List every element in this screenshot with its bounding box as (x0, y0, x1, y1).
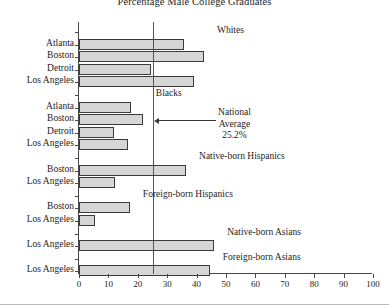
bar (79, 39, 184, 50)
x-axis-tick (79, 274, 80, 278)
x-axis-label: 30 (152, 279, 182, 289)
y-axis-label: Boston (47, 50, 74, 60)
y-axis-tick (75, 234, 79, 235)
x-axis-tick (255, 274, 256, 278)
y-axis-label: Boston (47, 164, 74, 174)
y-axis-tick (75, 271, 79, 272)
y-axis-tick (75, 183, 79, 184)
y-axis-tick (75, 57, 79, 58)
bar (79, 165, 186, 176)
y-axis-tick (75, 32, 79, 33)
x-axis-tick (314, 274, 315, 278)
x-axis-label: 90 (329, 279, 359, 289)
y-axis-label: Los Angeles (27, 138, 74, 148)
group-heading-foreign-born-hispanics: Foreign-born Hispanics (143, 189, 233, 199)
y-axis-tick (75, 246, 79, 247)
national-average-arrow (158, 120, 216, 121)
bottom-divider (0, 304, 389, 305)
x-axis-tick (285, 274, 286, 278)
national-average-annotation: NationalAverage25.2% (218, 107, 251, 142)
chart-title: Percentage Male College Graduates (0, 0, 389, 7)
bar (79, 202, 130, 213)
plot-area: 0102030405060708090100 (78, 22, 372, 274)
y-axis-tick (75, 208, 79, 209)
x-axis-label: 0 (64, 279, 94, 289)
group-heading-foreign-born-asians: Foreign-born Asians (223, 252, 301, 262)
y-axis-label: Los Angeles (27, 264, 74, 274)
x-axis-tick (108, 274, 109, 278)
x-axis-label: 80 (299, 279, 329, 289)
bar (79, 215, 95, 226)
y-axis-tick (75, 158, 79, 159)
y-axis-tick (75, 82, 79, 83)
bar (79, 139, 128, 150)
bar (79, 240, 214, 251)
y-axis-tick (75, 70, 79, 71)
bar (79, 64, 151, 75)
y-axis-tick (75, 221, 79, 222)
y-axis-label: Boston (47, 113, 74, 123)
national-average-arrow-head (154, 118, 159, 124)
group-heading-native-born-hispanics: Native-born Hispanics (199, 151, 285, 161)
x-axis-label: 50 (211, 279, 241, 289)
bar (79, 114, 143, 125)
chart-container: Percentage Male College Graduates 010203… (0, 0, 389, 307)
x-axis-label: 70 (270, 279, 300, 289)
y-axis-label: Boston (47, 201, 74, 211)
x-axis-label: 10 (93, 279, 123, 289)
bar (79, 127, 114, 138)
group-heading-native-born-asians: Native-born Asians (227, 227, 301, 237)
x-axis-tick (138, 274, 139, 278)
group-heading-blacks: Blacks (156, 88, 182, 98)
y-axis-label: Los Angeles (27, 176, 74, 186)
x-axis-tick (344, 274, 345, 278)
y-axis-label: Los Angeles (27, 239, 74, 249)
national-average-line3: 25.2% (218, 130, 251, 142)
y-axis-tick (75, 120, 79, 121)
y-axis-tick (75, 171, 79, 172)
bar (79, 51, 204, 62)
bar (79, 265, 210, 276)
y-axis-label: Atlanta (46, 38, 74, 48)
reference-line-national-average (153, 22, 154, 274)
y-axis-tick (75, 259, 79, 260)
x-axis-label: 40 (182, 279, 212, 289)
x-axis-tick (226, 274, 227, 278)
y-axis-label: Detroit (47, 126, 74, 136)
y-axis-tick (75, 145, 79, 146)
y-axis-label: Detroit (47, 63, 74, 73)
x-axis-label: 20 (123, 279, 153, 289)
bar (79, 102, 131, 113)
y-axis-label: Los Angeles (27, 214, 74, 224)
x-axis-label: 100 (358, 279, 388, 289)
x-axis-tick (373, 274, 374, 278)
y-axis-tick (75, 133, 79, 134)
y-axis-label: Atlanta (46, 101, 74, 111)
x-axis-tick (197, 274, 198, 278)
x-axis-tick (167, 274, 168, 278)
group-heading-whites: Whites (217, 25, 244, 35)
y-axis-tick (75, 45, 79, 46)
y-axis-label: Los Angeles (27, 75, 74, 85)
national-average-line1: National (218, 107, 251, 119)
bar (79, 76, 194, 87)
x-axis-label: 60 (240, 279, 270, 289)
y-axis-tick (75, 95, 79, 96)
bar (79, 177, 115, 188)
y-axis-tick (75, 196, 79, 197)
national-average-line2: Average (218, 119, 251, 131)
y-axis-tick (75, 108, 79, 109)
